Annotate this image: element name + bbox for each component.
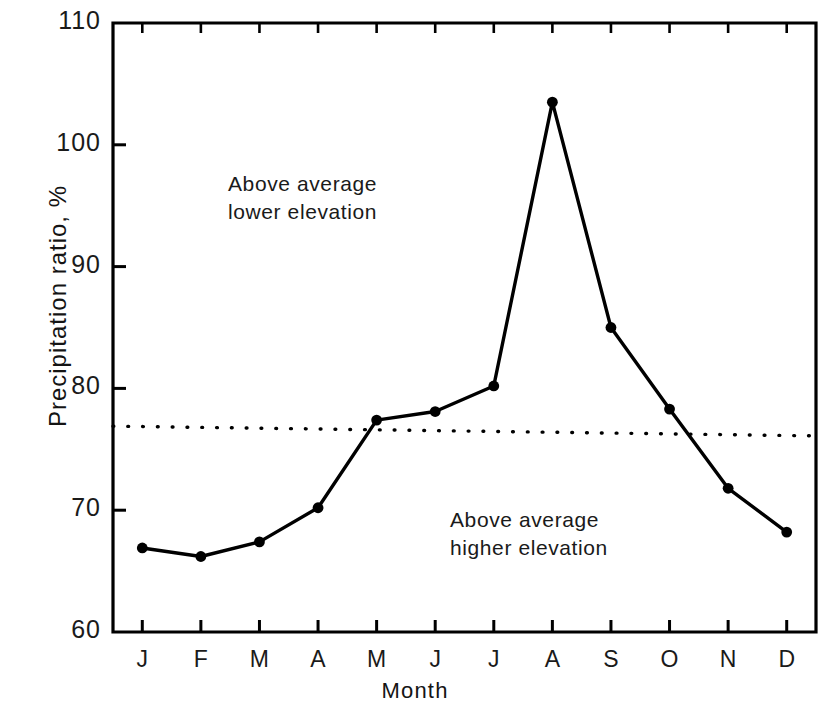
x-tick-label-september: S [591, 646, 631, 673]
y-tick-label-60: 60 [21, 615, 101, 644]
annotation-lower-line1: Above average [450, 506, 608, 534]
data-point-a-3 [313, 502, 324, 513]
data-series-markers [137, 97, 792, 562]
y-axis-ticks [113, 145, 126, 510]
x-tick-label-february: F [181, 646, 221, 673]
annotation-upper-line2: lower elevation [228, 198, 377, 226]
x-tick-label-june: J [415, 646, 455, 673]
data-point-a-7 [547, 97, 558, 108]
x-tick-label-july: J [474, 646, 514, 673]
precipitation-ratio-chart: Precipitation ratio, % Month 60708090100… [0, 0, 830, 717]
y-tick-label-80: 80 [21, 371, 101, 400]
x-axis-label: Month [0, 678, 830, 704]
data-point-j-6 [488, 381, 499, 392]
x-tick-label-april: A [298, 646, 338, 673]
x-tick-label-december: D [767, 646, 807, 673]
annotation-upper-line1: Above average [228, 170, 377, 198]
y-axis-label-container: Precipitation ratio, % [44, 136, 72, 476]
annotation-above-average-higher-elevation: Above average higher elevation [450, 506, 608, 563]
x-tick-label-march: M [239, 646, 279, 673]
data-point-s-8 [606, 322, 617, 333]
x-tick-label-august: A [532, 646, 572, 673]
x-tick-label-november: N [708, 646, 748, 673]
data-point-d-11 [781, 527, 792, 538]
data-point-m-2 [254, 536, 265, 547]
data-point-j-5 [430, 406, 441, 417]
y-tick-label-110: 110 [21, 6, 101, 35]
data-point-n-10 [723, 483, 734, 494]
data-point-m-4 [371, 415, 382, 426]
annotation-above-average-lower-elevation: Above average lower elevation [228, 170, 377, 227]
data-point-o-9 [664, 404, 675, 415]
x-tick-label-january: J [122, 646, 162, 673]
annotation-lower-line2: higher elevation [450, 534, 608, 562]
x-tick-label-october: O [650, 646, 690, 673]
y-tick-label-100: 100 [21, 128, 101, 157]
y-tick-label-90: 90 [21, 250, 101, 279]
data-point-f-1 [195, 551, 206, 562]
chart-canvas [0, 0, 830, 717]
y-tick-label-70: 70 [21, 493, 101, 522]
average-reference-line [113, 426, 816, 436]
data-point-j-0 [137, 543, 148, 554]
x-tick-label-may: M [357, 646, 397, 673]
